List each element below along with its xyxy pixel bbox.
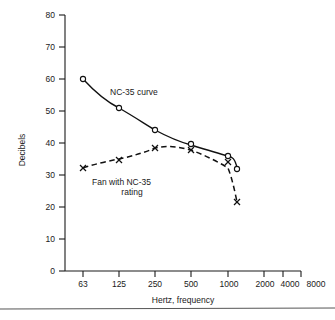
- y-tick-label-60: 60: [46, 74, 56, 84]
- series-line-nc35-curve: [83, 79, 237, 168]
- data-point-marker: [225, 159, 231, 165]
- y-axis-ticks: [59, 15, 65, 271]
- y-tick-label-20: 20: [46, 202, 56, 212]
- series-markers-fan-nc35-rating: [80, 145, 240, 205]
- x-tick-label-500: 500: [184, 279, 198, 289]
- annotation-fan-rating-line2: rating: [121, 187, 143, 197]
- y-tick-label-0: 0: [50, 266, 55, 276]
- series-markers-nc35-curve: [80, 76, 239, 171]
- annotation-fan-rating-line1: Fan with NC-35: [92, 177, 151, 187]
- x-tick-label-1000: 1000: [220, 279, 239, 289]
- data-point-marker: [225, 153, 230, 158]
- x-tick-label-125: 125: [112, 279, 126, 289]
- y-tick-label-30: 30: [46, 170, 56, 180]
- figure-container: 80 70 60 50 40 30 20 10 0 Decibels 63 12…: [0, 0, 335, 320]
- y-tick-label-70: 70: [46, 42, 56, 52]
- data-point-marker: [80, 76, 85, 81]
- data-point-marker: [188, 141, 193, 146]
- x-tick-label-2000: 2000: [256, 279, 275, 289]
- y-axis-title: Decibels: [17, 134, 27, 167]
- x-tick-label-4000: 4000: [281, 279, 300, 289]
- data-point-marker: [116, 157, 122, 163]
- x-tick-label-8000: 8000: [307, 279, 326, 289]
- data-point-marker: [234, 166, 239, 171]
- x-axis-ticks: [83, 271, 301, 277]
- x-tick-label-63: 63: [78, 279, 88, 289]
- data-point-marker: [116, 105, 121, 110]
- annotation-nc35-curve: NC-35 curve: [110, 87, 158, 97]
- x-axis-title: Hertz, frequency: [152, 295, 215, 305]
- y-tick-label-10: 10: [46, 234, 56, 244]
- y-tick-label-50: 50: [46, 106, 56, 116]
- footer-divider: [0, 308, 335, 309]
- y-tick-label-80: 80: [46, 10, 56, 20]
- y-tick-label-40: 40: [46, 138, 56, 148]
- data-point-marker: [152, 127, 157, 132]
- series-line-fan-nc35-rating: [83, 147, 237, 202]
- x-tick-label-250: 250: [148, 279, 162, 289]
- noise-criteria-chart: 80 70 60 50 40 30 20 10 0 Decibels 63 12…: [0, 0, 335, 320]
